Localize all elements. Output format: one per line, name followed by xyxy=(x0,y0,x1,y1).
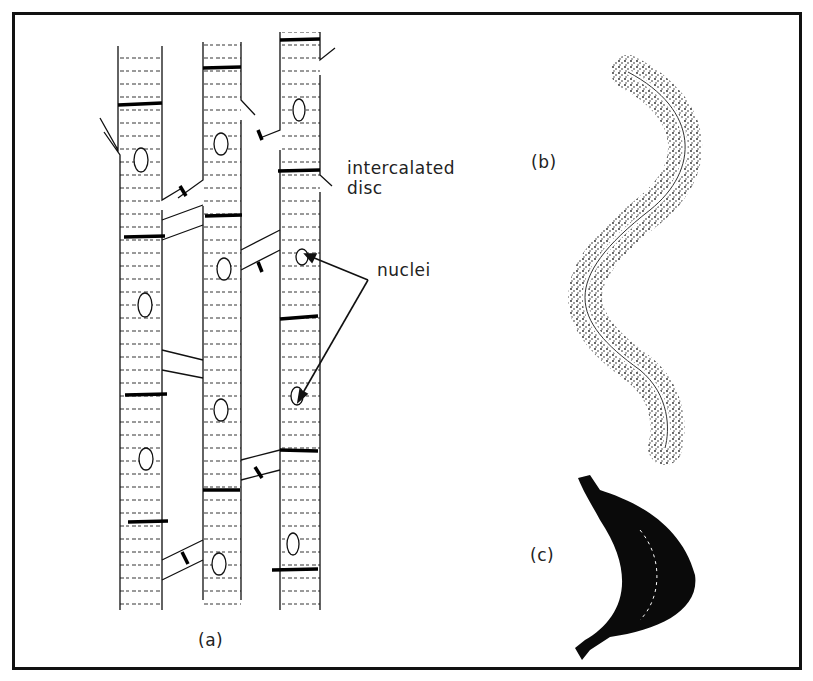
figure-drawing xyxy=(0,0,813,681)
nuclei-label: nuclei xyxy=(377,260,431,280)
smooth-muscle-cell xyxy=(585,72,685,448)
panel-c-label: (c) xyxy=(530,545,554,565)
panel-b-label: (b) xyxy=(531,152,557,172)
intercalated-disc-label-line1: intercalated xyxy=(347,158,455,178)
contracted-cell xyxy=(575,475,695,660)
intercalated-disc-label-line2: disc xyxy=(347,178,383,198)
panel-a-label: (a) xyxy=(198,630,223,650)
